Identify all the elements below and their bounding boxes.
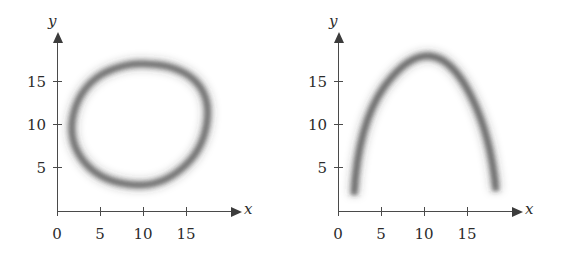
arch-curve-core xyxy=(354,56,496,195)
x-ticklabel-15-right: 15 xyxy=(457,227,476,242)
y-ticklabel-10-right: 10 xyxy=(295,118,327,133)
y-tick-15-left xyxy=(53,81,62,82)
chart-panel-left: 0 5 10 15 5 10 15 x y xyxy=(0,0,281,261)
chart-panel-right: 0 5 10 15 5 10 15 x y xyxy=(280,0,561,261)
y-axis-line-left xyxy=(57,42,58,212)
x-axis-label-right: x xyxy=(525,202,533,217)
y-ticklabel-15-right: 15 xyxy=(295,75,327,90)
x-ticklabel-15-left: 15 xyxy=(176,227,195,242)
x-ticklabel-5-right: 5 xyxy=(376,227,386,242)
x-axis-arrow-left xyxy=(231,207,242,217)
y-ticklabel-15-left: 15 xyxy=(14,75,46,90)
y-tick-5-right xyxy=(334,167,343,168)
x-tick-15-right xyxy=(467,207,468,216)
arch-curve-halo xyxy=(354,56,496,195)
y-tick-5-left xyxy=(53,167,62,168)
y-ticklabel-5-right: 5 xyxy=(295,161,327,176)
x-ticklabel-10-right: 10 xyxy=(414,227,433,242)
x-tick-15-left xyxy=(186,207,187,216)
x-ticklabel-10-left: 10 xyxy=(133,227,152,242)
x-axis-line-right xyxy=(338,211,514,212)
x-ticklabel-0-left: 0 xyxy=(52,227,62,242)
two-panel-density-figure: 0 5 10 15 5 10 15 x y xyxy=(0,0,561,261)
x-ticklabel-0-right: 0 xyxy=(333,227,343,242)
x-axis-line-left xyxy=(57,211,233,212)
arch-curve-group xyxy=(354,56,496,195)
x-tick-0-right xyxy=(338,207,339,216)
x-tick-10-left xyxy=(143,207,144,216)
x-axis-arrow-right xyxy=(512,207,523,217)
ring-curve-group xyxy=(72,64,208,185)
y-ticklabel-10-left: 10 xyxy=(14,118,46,133)
x-tick-10-right xyxy=(424,207,425,216)
y-axis-arrow-right xyxy=(334,32,344,43)
x-tick-0-left xyxy=(57,207,58,216)
y-tick-10-right xyxy=(334,124,343,125)
y-ticklabel-5-left: 5 xyxy=(14,161,46,176)
y-axis-line-right xyxy=(338,42,339,212)
y-axis-label-right: y xyxy=(329,14,337,29)
y-axis-label-left: y xyxy=(48,14,56,29)
y-tick-10-left xyxy=(53,124,62,125)
ring-curve-core xyxy=(72,64,208,185)
x-axis-label-left: x xyxy=(244,202,252,217)
y-tick-15-right xyxy=(334,81,343,82)
x-tick-5-right xyxy=(381,207,382,216)
x-tick-5-left xyxy=(100,207,101,216)
y-axis-arrow-left xyxy=(53,32,63,43)
x-ticklabel-5-left: 5 xyxy=(95,227,105,242)
